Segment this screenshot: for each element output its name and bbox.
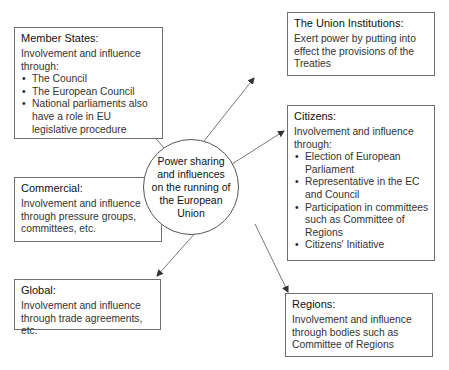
- list-item: Participation in committees such as Comm…: [294, 202, 429, 240]
- citizens-intro: Involvement and influence through:: [294, 126, 429, 151]
- union-institutions-text: Exert power by putting into effect the p…: [294, 33, 429, 71]
- list-item: The European Council: [21, 86, 157, 99]
- commercial-title: Commercial:: [21, 182, 156, 195]
- list-item: The Council: [21, 73, 157, 86]
- citizens-list: Election of European Parliament Represen…: [294, 151, 429, 252]
- commercial-box: Commercial: Involvement and influence th…: [14, 177, 162, 242]
- global-box: Global: Involvement and influence throug…: [14, 279, 161, 330]
- arrow-to-citizens: [232, 131, 284, 164]
- member-states-title: Member States:: [21, 32, 157, 45]
- list-item: National parliaments also have a role in…: [21, 98, 157, 136]
- list-item: Election of European Parliament: [294, 151, 429, 176]
- regions-title: Regions:: [292, 298, 427, 311]
- commercial-text: Involvement and influence through pressu…: [21, 198, 156, 236]
- citizens-title: Citizens:: [294, 110, 429, 123]
- central-hub-circle: Power sharing and influences on the runn…: [143, 139, 239, 235]
- list-item: Citizens' Initiative: [294, 239, 429, 252]
- citizens-box: Citizens: Involvement and influence thro…: [287, 105, 435, 261]
- list-item: Representative in the EC and Council: [294, 176, 429, 201]
- arrow-to-regions: [255, 224, 288, 292]
- union-institutions-box: The Union Institutions: Exert power by p…: [287, 12, 435, 76]
- member-states-intro: Involvement and influence through:: [21, 48, 157, 73]
- arrow-to-global: [157, 231, 197, 276]
- global-title: Global:: [21, 284, 155, 297]
- union-institutions-title: The Union Institutions:: [294, 17, 429, 30]
- regions-box: Regions: Involvement and influence throu…: [285, 293, 433, 357]
- arrow-to-union-institutions: [204, 78, 254, 141]
- member-states-box: Member States: Involvement and influence…: [14, 27, 163, 139]
- regions-text: Involvement and influence through bodies…: [292, 314, 427, 352]
- central-hub-label: Power sharing and influences on the runn…: [151, 155, 231, 220]
- member-states-list: The Council The European Council Nationa…: [21, 73, 157, 136]
- global-text: Involvement and influence through trade …: [21, 300, 155, 338]
